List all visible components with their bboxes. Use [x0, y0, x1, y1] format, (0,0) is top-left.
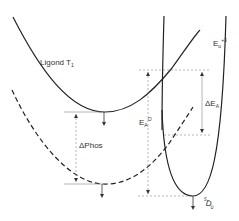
label-ea0: EAO	[139, 117, 152, 128]
label-delta-ea: ΔEA	[205, 100, 219, 109]
label-eu3: Eu+3	[213, 38, 227, 49]
delta-ea-main: ΔE	[205, 99, 216, 108]
label-ligand-t1: Ligond T1	[40, 59, 74, 68]
ea0-sup: O	[148, 116, 152, 122]
label-delta-phos: ΔPhos	[79, 142, 103, 150]
ligand-t1-text: Ligond T	[40, 58, 71, 67]
delta-ea-sub: A	[216, 103, 219, 109]
energy-diagram	[0, 0, 239, 221]
eu3-sup: +3	[221, 37, 227, 43]
ligand-relaxed-dashed-curve	[12, 90, 193, 184]
delta-phos-text: ΔPhos	[79, 141, 103, 150]
ligand-t1-sub: 1	[71, 62, 74, 68]
eu3-sub: u	[218, 43, 221, 49]
ea0-sub: A	[144, 122, 147, 128]
